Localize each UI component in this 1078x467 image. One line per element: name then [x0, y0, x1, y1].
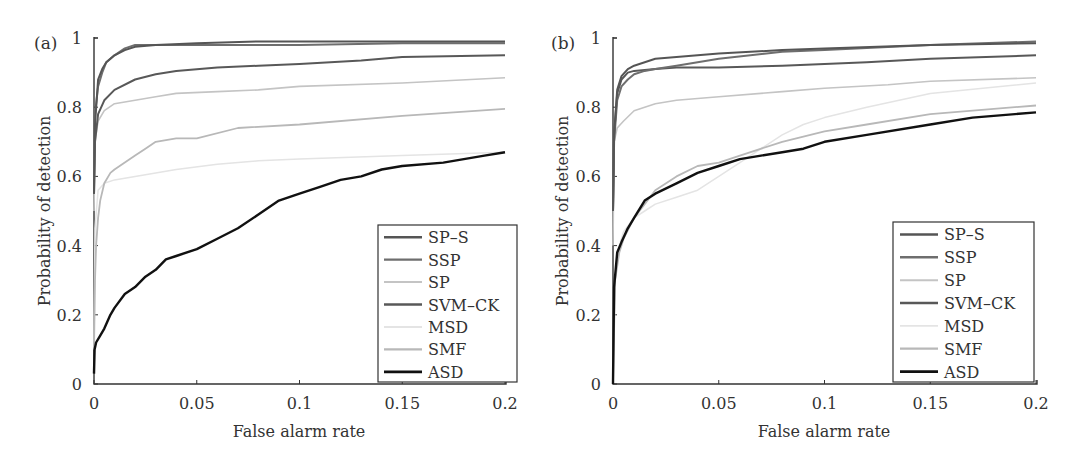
y-tick-label: 0 [591, 375, 601, 394]
legend-label: SP [428, 273, 450, 292]
legend-label: SMF [428, 340, 466, 359]
y-tick-label: 0.4 [57, 237, 82, 256]
x-tick-label: 0.05 [179, 394, 215, 413]
panel-label-b: (b) [551, 33, 575, 53]
legend-label: SSP [944, 248, 977, 267]
legend-label: SP–S [944, 225, 985, 244]
x-tick-label: 0.05 [701, 394, 737, 413]
x-tick-label: 0.1 [287, 394, 312, 413]
x-tick-label: 0.2 [492, 394, 517, 413]
chart-panel-b: (b) Probability of detection False alarm… [551, 29, 1049, 441]
legend-a: SP–SSSPSPSVM–CKMSDSMFASD [378, 225, 517, 382]
y-axis-label-b: Probability of detection [553, 116, 572, 307]
roc-figure: (a) Probability of detection False alarm… [0, 0, 1078, 467]
series-line-sp [94, 78, 505, 211]
y-tick-label: 0.8 [576, 98, 601, 117]
y-axis-label-a: Probability of detection [35, 116, 54, 307]
legend-label: ASD [943, 363, 979, 382]
legend-label: ASD [427, 363, 463, 382]
legend-label: SVM–CK [944, 294, 1016, 313]
series-line-sp [613, 78, 1036, 246]
x-tick-label: 0.15 [912, 394, 948, 413]
y-tick-label: 0.6 [57, 167, 82, 186]
x-tick-label: 0.1 [812, 394, 837, 413]
legend-label: SMF [944, 340, 982, 359]
chart-panel-a: (a) Probability of detection False alarm… [34, 29, 518, 441]
legend-label: SP [944, 271, 966, 290]
y-tick-label: 0.4 [576, 237, 601, 256]
y-tick-label: 0 [72, 375, 82, 394]
x-axis-label-b: False alarm rate [758, 422, 891, 441]
legend-label: MSD [428, 318, 468, 337]
panel-label-a: (a) [34, 33, 57, 53]
y-tick-label: 1 [591, 29, 601, 48]
legend-b: SP–SSSPSPSVM–CKMSDSMFASD [893, 222, 1034, 382]
series-line-svm-ck [613, 55, 1036, 211]
x-tick-label: 0 [608, 394, 618, 413]
y-tick-label: 0.6 [576, 167, 601, 186]
legend-label: MSD [944, 317, 984, 336]
legend-label: SVM–CK [428, 296, 500, 315]
x-tick-label: 0.15 [384, 394, 420, 413]
x-tick-label: 0.2 [1023, 394, 1048, 413]
y-tick-label: 0.2 [576, 306, 601, 325]
legend-label: SSP [428, 251, 461, 270]
y-tick-label: 1 [72, 29, 82, 48]
legend-label: SP–S [428, 228, 469, 247]
y-tick-label: 0.8 [57, 98, 82, 117]
x-axis-label-a: False alarm rate [233, 422, 366, 441]
x-tick-label: 0 [89, 394, 99, 413]
y-tick-label: 0.2 [57, 306, 82, 325]
